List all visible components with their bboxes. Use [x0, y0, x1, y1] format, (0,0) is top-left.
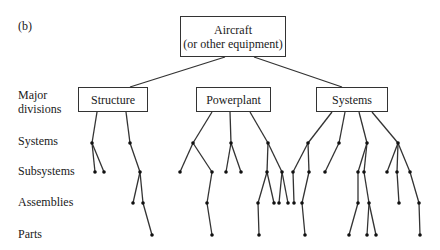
level-label-major-line1: Major [18, 88, 61, 102]
tree-edge [180, 143, 193, 172]
tree-edge [325, 143, 339, 172]
tree-edge [397, 143, 398, 172]
tree-node [292, 201, 296, 205]
tree-edge [140, 172, 143, 203]
tree-node [229, 141, 233, 145]
tree-edge [308, 143, 309, 172]
tree-edge [230, 112, 231, 143]
tree-node [138, 170, 142, 174]
tree-edge [398, 143, 410, 172]
tree-node [210, 170, 214, 174]
level-label-major-line2: divisions [18, 102, 61, 116]
tree-node [210, 233, 214, 237]
tree-node [131, 201, 135, 205]
tree-node [266, 141, 270, 145]
tree-edge [419, 203, 420, 235]
level-label-subsystems: Subsystems [18, 165, 75, 178]
tree-edge [293, 172, 294, 203]
root-box-aircraft: Aircraft (or other equipment) [180, 16, 286, 57]
tree-edge [349, 203, 358, 235]
tree-node [365, 141, 369, 145]
tree-node [150, 233, 154, 237]
tree-node [256, 201, 260, 205]
level-label-assemblies: Assemblies [18, 196, 73, 209]
tree-edge [282, 172, 288, 203]
tree-node [286, 201, 290, 205]
tree-node [367, 201, 371, 205]
tree-node [280, 170, 284, 174]
tree-edge [92, 112, 97, 143]
tree-edge [231, 143, 241, 172]
root-title: Aircraft [214, 23, 252, 37]
tree-node [300, 201, 304, 205]
tree-node [417, 201, 421, 205]
tree-edge [126, 112, 130, 143]
tree-edge [267, 172, 274, 203]
division-box-systems: Systems [316, 87, 388, 112]
tree-edge [308, 112, 332, 143]
tree-node [374, 233, 378, 237]
tree-edge [133, 172, 140, 203]
tree-node [291, 170, 295, 174]
tree-edge [207, 172, 212, 203]
tree-node [277, 201, 281, 205]
tree-node [128, 141, 132, 145]
tree-edge [359, 112, 367, 143]
tree-node [257, 233, 261, 237]
tree-edge [193, 143, 212, 172]
root-subtitle: (or other equipment) [183, 37, 282, 51]
tree-edge [302, 203, 305, 235]
tree-node [272, 201, 276, 205]
tree-edge [302, 172, 309, 203]
tree-node [239, 170, 243, 174]
tree-node [365, 233, 369, 237]
tree-edge [207, 203, 212, 235]
tree-edge [410, 172, 419, 203]
division-box-powerplant: Powerplant [196, 87, 271, 112]
tree-node [397, 201, 401, 205]
tree-node [141, 201, 145, 205]
tree-node [224, 170, 228, 174]
tree-node [93, 170, 97, 174]
tree-node [337, 141, 341, 145]
tree-edge [339, 112, 345, 143]
tree-node [408, 170, 412, 174]
tree-node [178, 170, 182, 174]
level-label-major-divisions: Major divisions [18, 88, 61, 116]
tree-edge [364, 172, 369, 203]
tree-node [306, 141, 310, 145]
tree-edge [268, 143, 282, 172]
tree-node [362, 170, 366, 174]
tree-node [356, 170, 360, 174]
tree-edge [193, 112, 212, 143]
tree-edge [258, 203, 259, 235]
tree-node [90, 141, 94, 145]
tree-node [205, 201, 209, 205]
tree-node [191, 141, 195, 145]
tree-node [303, 233, 307, 237]
tree-node [396, 141, 400, 145]
tree-edge [397, 172, 399, 203]
tree-node [323, 170, 327, 174]
tree-edge [226, 143, 231, 172]
tree-edge [254, 57, 342, 87]
tree-edge [267, 143, 268, 172]
tree-node [395, 170, 399, 174]
tree-edge [130, 57, 225, 87]
tree-node [307, 170, 311, 174]
tree-node [102, 170, 106, 174]
tree-node [265, 170, 269, 174]
tree-node [356, 201, 360, 205]
tree-node [347, 233, 351, 237]
tree-edge [250, 112, 268, 143]
tree-edge [367, 203, 369, 235]
tree-node [385, 170, 389, 174]
tree-edge [387, 143, 398, 172]
tree-node [418, 233, 422, 237]
level-label-parts: Parts [18, 228, 42, 241]
tree-edge [369, 203, 376, 235]
level-label-systems: Systems [18, 135, 58, 148]
tree-edge [130, 143, 140, 172]
figure-label: (b) [18, 20, 32, 33]
division-box-structure: Structure [78, 87, 148, 112]
